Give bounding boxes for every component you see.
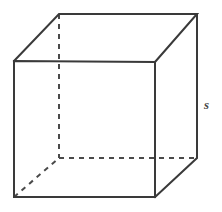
cube-drawing <box>0 0 222 212</box>
side-length-label: s <box>204 98 209 111</box>
cube-figure-container: s <box>0 0 222 212</box>
cube-front-face <box>14 61 155 197</box>
